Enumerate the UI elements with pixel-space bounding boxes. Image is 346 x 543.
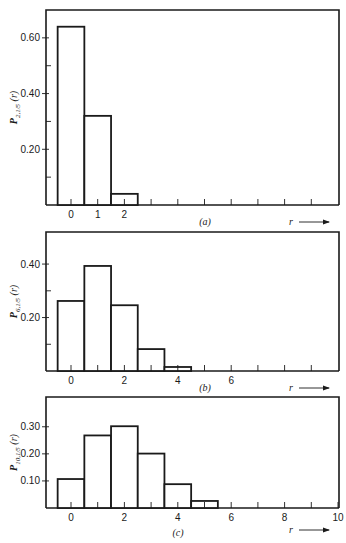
- y-tick-label: 0.10: [21, 475, 41, 486]
- bar-r-0: [58, 301, 85, 371]
- bar-r-2: [111, 305, 138, 371]
- x-axis-label: r: [289, 216, 293, 227]
- arrow-right-icon: [323, 386, 330, 391]
- y-tick-label: 0.30: [21, 421, 41, 432]
- x-tick-label: 2: [122, 512, 128, 523]
- panel-caption: (b): [199, 382, 211, 394]
- y-tick-label: 0.40: [21, 88, 41, 99]
- x-tick-label: 10: [332, 512, 344, 523]
- x-tick-label: 4: [175, 512, 181, 523]
- x-tick-label: 2: [122, 375, 128, 386]
- bar-r-1: [84, 266, 111, 371]
- bar-r-1: [84, 435, 111, 508]
- bar-r-1: [84, 116, 111, 205]
- x-tick-label: 6: [228, 375, 234, 386]
- arrow-right-icon: [323, 220, 330, 225]
- y-tick-label: 0.20: [21, 312, 41, 323]
- chart-a: 0120.200.400.60P2,1/5 (r)r(a): [8, 10, 339, 228]
- x-tick-label: 6: [228, 512, 234, 523]
- x-axis-label: r: [289, 524, 293, 535]
- x-tick-label: 1: [95, 209, 101, 220]
- x-tick-label: 0: [68, 512, 74, 523]
- x-tick-label: 8: [282, 512, 288, 523]
- chart-b: 02460.200.40P6,1/5 (r)r(b): [8, 232, 339, 394]
- panel-caption: (c): [172, 527, 184, 539]
- x-tick-label: 2: [122, 209, 128, 220]
- x-tick-label: 0: [68, 209, 74, 220]
- y-tick-label: 0.20: [21, 448, 41, 459]
- x-tick-label: 4: [175, 375, 181, 386]
- chart-c: 02468100.100.200.30P10,1/5 (r)r(c): [8, 397, 344, 539]
- bar-r-3: [138, 454, 165, 508]
- y-axis-label: P10,1/5 (r): [8, 433, 22, 471]
- panel-caption: (a): [199, 216, 211, 228]
- y-tick-label: 0.40: [21, 259, 41, 270]
- arrow-right-icon: [323, 528, 330, 533]
- binomial-distribution-figure: 0120.200.400.60P2,1/5 (r)r(a)02460.200.4…: [0, 0, 346, 543]
- y-tick-label: 0.20: [21, 144, 41, 155]
- bar-r-2: [111, 426, 138, 508]
- y-tick-label: 0.60: [21, 32, 41, 43]
- x-tick-label: 0: [68, 375, 74, 386]
- bar-r-0: [58, 27, 85, 205]
- x-axis-label: r: [289, 382, 293, 393]
